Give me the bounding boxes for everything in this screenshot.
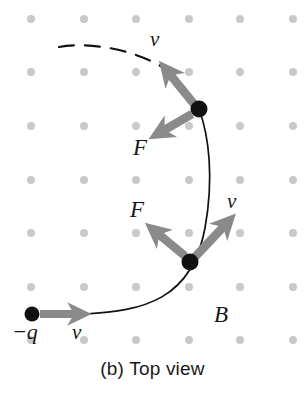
- velocity-label-upper: v: [150, 29, 159, 50]
- force-label-upper: F: [133, 136, 147, 159]
- velocity-label-lower: v: [227, 191, 236, 212]
- force-arrow-lower: [156, 232, 185, 256]
- diagram-canvas: [0, 0, 305, 402]
- magnetic-force-diagram: v F F v B −q v (b) Top view: [0, 0, 305, 402]
- velocity-label-start: v: [72, 322, 81, 343]
- particle-upper: [191, 101, 208, 118]
- particle-lower: [182, 254, 199, 271]
- velocity-arrow-lower: [194, 224, 226, 258]
- trajectory-solid-arc: [85, 109, 210, 314]
- charge-label: −q: [12, 321, 38, 343]
- magnetic-field-label: B: [214, 303, 228, 326]
- figure-caption: (b) Top view: [0, 358, 305, 380]
- field-dot-grid: [27, 15, 297, 344]
- velocity-arrow-upper: [168, 72, 194, 104]
- force-label-lower: F: [130, 198, 144, 221]
